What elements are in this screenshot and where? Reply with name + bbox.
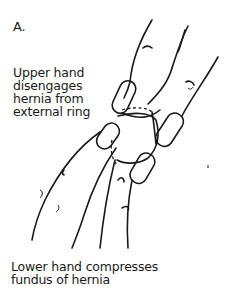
lower-hand (32, 120, 158, 248)
upper-hand (110, 20, 218, 149)
hernia-reduction-illustration (0, 0, 245, 288)
